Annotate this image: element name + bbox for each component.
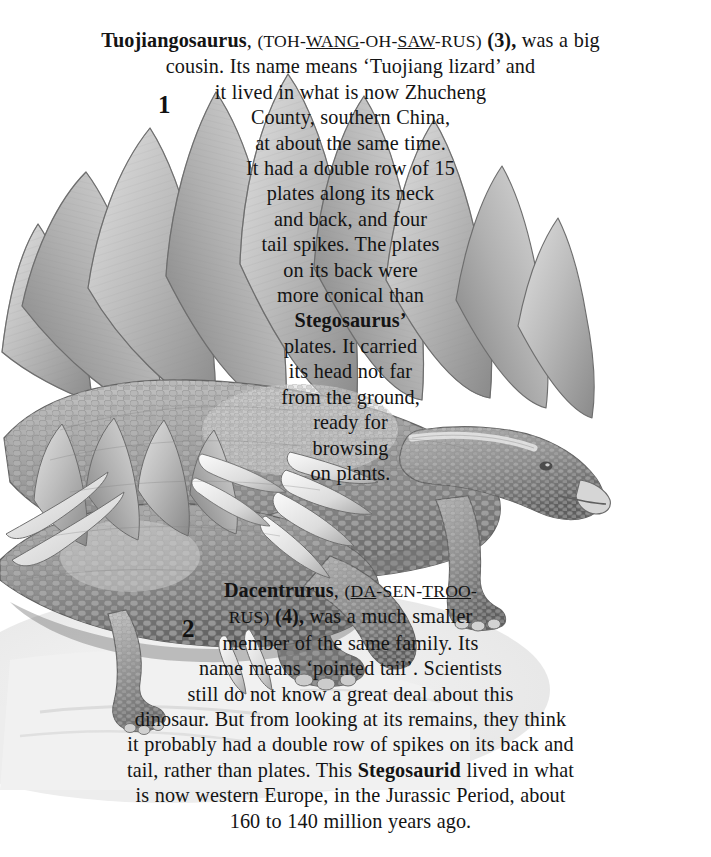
text-line: plates. It carried [0,334,711,359]
line-text: was a big [522,29,600,51]
text-line: more conical than [0,283,711,308]
text-line: cousin. Its name means ‘Tuojiang lizard’… [0,54,711,79]
text-line: from the ground, [0,385,711,410]
text-line: It had a double row of 15 [0,156,711,181]
text-line: on plants. [0,461,711,486]
dacentrurus-paragraph: Dacentrurus, (DA-SEN-TROO- RUS) (4), was… [0,578,711,834]
text-line: tail, rather than plates. This Stegosaur… [0,758,711,783]
text-line: and back, and four [0,207,711,232]
line-text: was a much smaller [310,605,473,627]
text-line: Stegosaurus’ [0,308,711,333]
text-line: Tuojiangosaurus, (TOH-WANG-OH-SAW-RUS) (… [0,28,711,54]
text-line: member of the same family. Its [0,631,711,656]
text-line: tail spikes. The plates [0,232,711,257]
tuojiangosaurus-paragraph: Tuojiangosaurus, (TOH-WANG-OH-SAW-RUS) (… [0,28,711,486]
pronunciation-tuojiangosaurus: (TOH-WANG-OH-SAW-RUS) [257,31,481,51]
text-line: Dacentrurus, (DA-SEN-TROO- [0,578,711,604]
pronunciation-tail: RUS) [229,607,270,627]
text-line: it probably had a double row of spikes o… [0,732,711,757]
text-line: is now western Europe, in the Jurassic P… [0,783,711,808]
text-line: at about the same time. [0,131,711,156]
text-line: it lived in what is now Zhucheng [0,80,711,105]
species-name-stegosaurus: Stegosaurus’ [294,309,406,331]
species-name-tuojiangosaurus: Tuojiangosaurus [101,29,247,51]
text-line: County, southern China, [0,105,711,130]
reference-number-3: (3), [487,29,516,51]
line-text: tail, rather than plates. This [127,759,352,781]
text-line: ready for [0,410,711,435]
text-line: plates along its neck [0,181,711,206]
text-line: browsing [0,436,711,461]
species-name-dacentrurus: Dacentrurus [224,579,334,601]
text-line: 160 to 140 million years ago. [0,809,711,834]
comma: , [334,579,339,601]
text-line: its head not far [0,359,711,384]
text-line: on its back were [0,258,711,283]
reference-number-4: (4), [275,605,304,627]
line-text: lived in what [466,759,574,781]
species-group-stegosaurid: Stegosaurid [358,759,461,781]
text-line: dinosaur. But from looking at its remain… [0,707,711,732]
pronunciation-dacentrurus: (DA-SEN-TROO- [344,581,477,601]
text-line: still do not know a great deal about thi… [0,682,711,707]
comma: , [247,29,252,51]
text-line: name means ‘pointed tail’. Scientists [0,656,711,681]
book-page: 1 2 Tuojiangosaurus, (TOH-WANG-OH-SAW-RU… [0,0,711,857]
text-line: RUS) (4), was a much smaller [0,604,711,630]
